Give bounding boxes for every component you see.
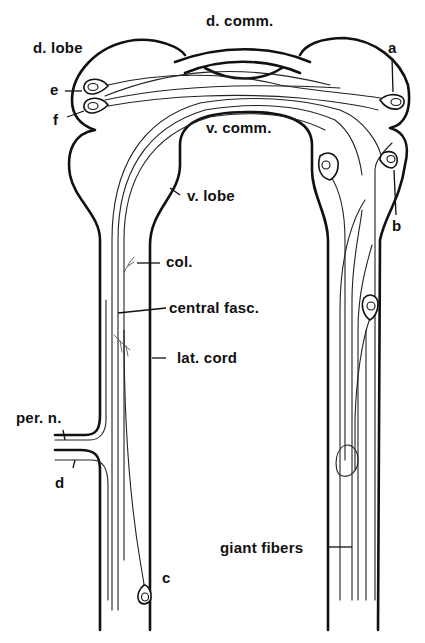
cell-a: [380, 95, 404, 110]
leader-b: [394, 170, 396, 215]
label-v-lobe: v. lobe: [187, 188, 235, 203]
right-lobe-outline: [300, 38, 409, 630]
label-central-fasc: central fasc.: [169, 300, 259, 315]
fiber-from-lower-right-cell: [355, 318, 370, 470]
leader-a: [392, 58, 393, 92]
upper-right-giant-cell: [319, 153, 338, 180]
collateral-branch-lower: [114, 335, 130, 356]
label-f: f: [53, 112, 58, 127]
label-col: col.: [166, 254, 193, 269]
right-long-fiber-2: [352, 210, 362, 600]
left-long-fiber-3: [124, 114, 325, 560]
cell-b: [380, 152, 397, 168]
label-d-lobe: d. lobe: [33, 40, 83, 55]
label-c: c: [162, 570, 171, 585]
lower-right-giant-cell: [362, 295, 378, 320]
label-v-comm: v. comm.: [206, 120, 272, 135]
peripheral-nerve-upper: [55, 300, 106, 440]
label-d-comm: d. comm.: [206, 13, 273, 28]
fiber-to-cell-c: [124, 330, 145, 590]
fiber-f: [108, 95, 378, 110]
leader-central-fasc: [118, 308, 166, 313]
dorsal-commissure-top: [175, 49, 310, 62]
cell-f: [84, 98, 108, 113]
fiber-e-to-a: [108, 75, 392, 100]
collateral-branch-col: [124, 257, 134, 272]
dorsal-commissure-fiber-2: [105, 86, 340, 100]
label-a: a: [388, 40, 397, 55]
label-e: e: [50, 82, 59, 97]
leader-d: [73, 460, 75, 468]
label-b: b: [392, 218, 401, 233]
nerve-cord-diagram: [0, 0, 425, 643]
left-long-fiber-1: [112, 99, 382, 610]
label-lat-cord: lat. cord: [177, 350, 237, 365]
cell-c: [138, 585, 151, 604]
label-per-n: per. n.: [16, 410, 62, 425]
label-giant-fibers: giant fibers: [220, 540, 303, 555]
fiber-from-upper-right-cell: [330, 175, 345, 460]
cell-e: [84, 79, 108, 94]
dorsal-commissure-lens-bottom: [205, 68, 282, 79]
left-cord-upper-outline: [55, 40, 185, 435]
label-d: d: [55, 475, 64, 490]
